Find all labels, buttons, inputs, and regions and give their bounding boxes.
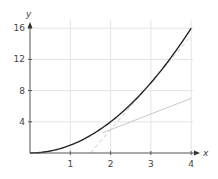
y-tick-label: 12 [14, 54, 25, 64]
x-tick-label: 4 [188, 159, 194, 169]
y-axis-label: y [25, 9, 32, 19]
y-tick-label: 4 [19, 117, 25, 127]
tick-labels: 1234481216 [14, 23, 195, 169]
x-tick-label: 3 [148, 159, 154, 169]
y-tick-label: 16 [14, 23, 26, 33]
y-axis-arrow-icon [28, 22, 33, 28]
x-tick-label: 1 [67, 159, 73, 169]
chart: x y 1234481216 [0, 0, 218, 179]
y-tick-label: 8 [19, 86, 25, 96]
axes: x y [25, 9, 209, 158]
grid-lines [30, 20, 193, 153]
x-tick-label: 2 [108, 159, 114, 169]
x-axis-label: x [202, 148, 209, 158]
x-axis-arrow-icon [194, 151, 200, 156]
tangent-line [103, 98, 192, 132]
